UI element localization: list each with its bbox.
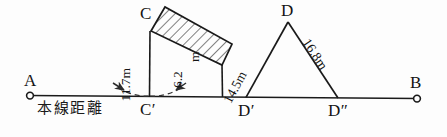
vertical-leg-c bbox=[150, 31, 151, 96]
foot-label-c-prime: C′ bbox=[140, 101, 156, 118]
point-label-c: C bbox=[140, 5, 152, 22]
survey-diagram: A B C D C′ D′ D″ 本線距離 11.7m 6.2 m 14.5m … bbox=[0, 0, 447, 137]
endpoint-marker-b bbox=[414, 95, 421, 102]
point-label-a: A bbox=[24, 72, 37, 89]
triangle-left-side bbox=[246, 22, 288, 97]
endpoint-marker-a bbox=[27, 92, 34, 99]
foot-label-d-double-prime: D″ bbox=[328, 102, 348, 119]
dimension-unit-m: m bbox=[188, 51, 200, 62]
dimension-label-11-7m: 11.7m bbox=[119, 68, 133, 102]
dimension-value-6-2: 6.2 bbox=[171, 71, 197, 88]
baseline-caption: 本線距離 bbox=[37, 101, 103, 116]
point-label-d: D bbox=[281, 2, 294, 19]
foot-label-d-prime: D′ bbox=[238, 102, 255, 119]
dimension-label-6-2m: 6.2 m bbox=[196, 50, 214, 88]
point-label-b: B bbox=[410, 74, 422, 91]
